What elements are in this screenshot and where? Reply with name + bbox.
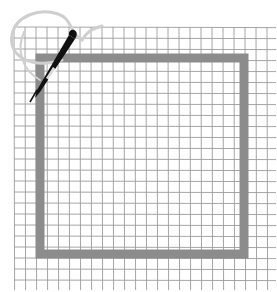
needlepoint-illustration bbox=[0, 0, 277, 292]
